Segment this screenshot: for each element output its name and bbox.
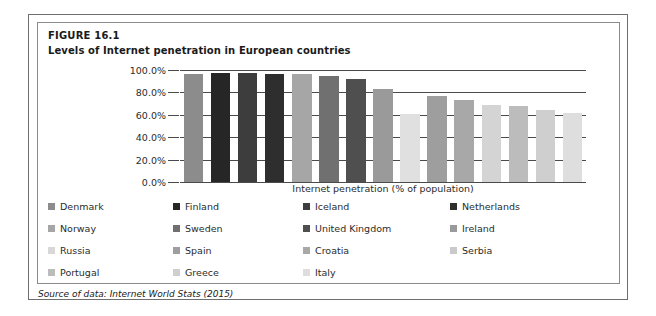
figure-outer-frame: FIGURE 16.1 Levels of Internet penetrati… xyxy=(28,14,628,300)
legend-label: Croatia xyxy=(315,245,349,256)
legend-label: Spain xyxy=(185,245,212,256)
bars-group xyxy=(180,70,586,182)
y-axis-tick-label: 60.0% xyxy=(94,109,166,120)
legend-row: PortugalGreeceItaly xyxy=(38,267,620,284)
y-axis-tick-label: 20.0% xyxy=(94,154,166,165)
bar-iceland xyxy=(238,73,257,182)
y-axis-tick-mark xyxy=(168,160,179,161)
bar-russia xyxy=(400,114,419,182)
legend-swatch-icon xyxy=(450,225,457,232)
y-axis-tick-mark xyxy=(168,92,179,93)
bar-norway xyxy=(292,74,311,182)
legend-swatch-icon xyxy=(303,203,310,210)
figure-page: FIGURE 16.1 Levels of Internet penetrati… xyxy=(0,0,656,316)
legend-item-spain[interactable]: Spain xyxy=(173,245,212,256)
legend-label: United Kingdom xyxy=(315,223,391,234)
y-axis-tick-label: 0.0% xyxy=(94,177,166,188)
y-axis-tick-mark xyxy=(168,137,179,138)
bar-greece xyxy=(536,110,555,182)
legend-item-greece[interactable]: Greece xyxy=(173,267,219,278)
bar-italy xyxy=(563,113,582,182)
legend-swatch-icon xyxy=(450,247,457,254)
legend-item-russia[interactable]: Russia xyxy=(48,245,91,256)
figure-inner-panel: FIGURE 16.1 Levels of Internet penetrati… xyxy=(37,22,620,284)
legend-label: Italy xyxy=(315,267,336,278)
y-axis-tick-mark xyxy=(168,182,179,183)
legend-item-united-kingdom[interactable]: United Kingdom xyxy=(303,223,391,234)
bar-ireland xyxy=(373,89,392,182)
legend-swatch-icon xyxy=(173,269,180,276)
bar-netherlands xyxy=(265,74,284,182)
y-axis-tick-mark xyxy=(168,115,179,116)
legend-row: DenmarkFinlandIcelandNetherlands xyxy=(38,201,620,223)
legend-swatch-icon xyxy=(303,269,310,276)
bar-chart: 100.0%80.0%60.0%40.0%20.0%0.0% Internet … xyxy=(38,61,620,193)
legend-label: Russia xyxy=(60,245,91,256)
legend-label: Serbia xyxy=(462,245,492,256)
legend-item-sweden[interactable]: Sweden xyxy=(173,223,223,234)
legend-item-denmark[interactable]: Denmark xyxy=(48,201,104,212)
legend-label: Portugal xyxy=(60,267,99,278)
chart-legend: DenmarkFinlandIcelandNetherlandsNorwaySw… xyxy=(38,201,620,284)
legend-row: NorwaySwedenUnited KingdomIreland xyxy=(38,223,620,245)
legend-swatch-icon xyxy=(303,225,310,232)
figure-number-label: FIGURE 16.1 xyxy=(48,30,120,41)
legend-swatch-icon xyxy=(450,203,457,210)
bar-united-kingdom xyxy=(346,79,365,182)
legend-swatch-icon xyxy=(173,247,180,254)
legend-swatch-icon xyxy=(48,225,55,232)
legend-swatch-icon xyxy=(48,203,55,210)
bar-finland xyxy=(211,73,230,182)
legend-item-portugal[interactable]: Portugal xyxy=(48,267,99,278)
y-axis-tick-label: 40.0% xyxy=(94,132,166,143)
legend-item-serbia[interactable]: Serbia xyxy=(450,245,492,256)
legend-label: Sweden xyxy=(185,223,223,234)
legend-label: Ireland xyxy=(462,223,495,234)
bar-portugal xyxy=(509,106,528,182)
x-axis-title: Internet penetration (% of population) xyxy=(180,183,586,194)
bar-spain xyxy=(427,96,446,182)
bar-sweden xyxy=(319,76,338,182)
bar-denmark xyxy=(184,74,203,182)
legend-item-croatia[interactable]: Croatia xyxy=(303,245,349,256)
y-axis-tick-mark xyxy=(168,70,179,71)
legend-swatch-icon xyxy=(48,269,55,276)
legend-item-iceland[interactable]: Iceland xyxy=(303,201,349,212)
legend-label: Finland xyxy=(185,201,219,212)
source-note: Source of data: Internet World Stats (20… xyxy=(38,289,233,299)
legend-swatch-icon xyxy=(173,225,180,232)
legend-swatch-icon xyxy=(173,203,180,210)
legend-item-italy[interactable]: Italy xyxy=(303,267,336,278)
legend-label: Greece xyxy=(185,267,219,278)
legend-label: Netherlands xyxy=(462,201,520,212)
legend-item-finland[interactable]: Finland xyxy=(173,201,219,212)
legend-label: Iceland xyxy=(315,201,349,212)
legend-item-norway[interactable]: Norway xyxy=(48,223,96,234)
legend-item-netherlands[interactable]: Netherlands xyxy=(450,201,520,212)
y-axis-tick-label: 80.0% xyxy=(94,87,166,98)
legend-swatch-icon xyxy=(48,247,55,254)
bar-croatia xyxy=(454,100,473,182)
legend-item-ireland[interactable]: Ireland xyxy=(450,223,495,234)
plot-area xyxy=(180,70,586,182)
legend-label: Norway xyxy=(60,223,96,234)
legend-row: RussiaSpainCroatiaSerbia xyxy=(38,245,620,267)
bar-serbia xyxy=(482,105,501,182)
legend-label: Denmark xyxy=(60,201,104,212)
legend-swatch-icon xyxy=(303,247,310,254)
y-axis-tick-label: 100.0% xyxy=(94,65,166,76)
figure-title: Levels of Internet penetration in Europe… xyxy=(48,45,351,56)
